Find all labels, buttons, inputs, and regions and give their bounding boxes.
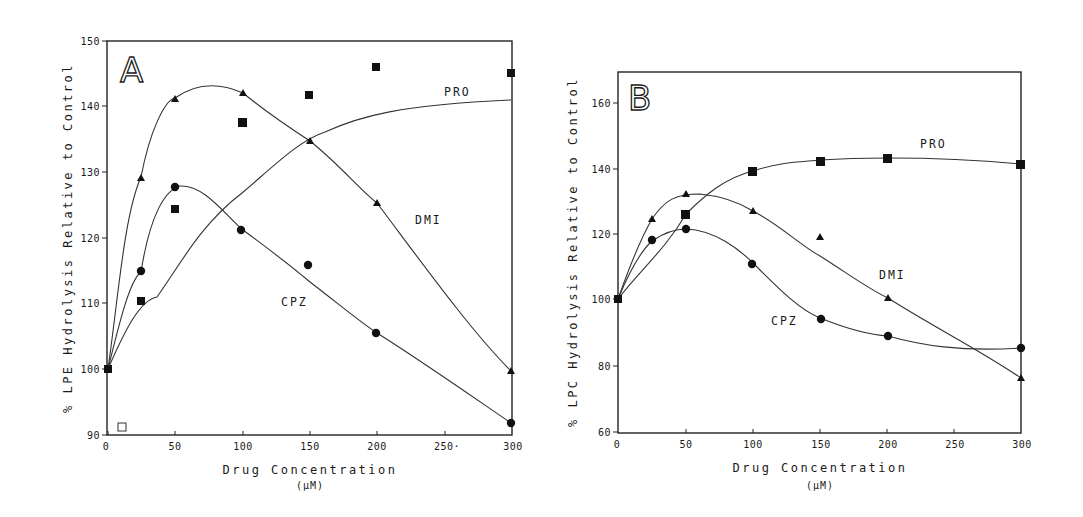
small-square-mark (118, 423, 126, 431)
y-tick-b: 120 (591, 229, 611, 240)
y-axis-b: 60 80 100 120 140 160 (591, 98, 618, 438)
label-dmi-a: DMI (415, 213, 442, 227)
panel-letter-a: A (120, 50, 143, 90)
curve-pro-b (618, 158, 1021, 299)
y-tick-a: 150 (80, 36, 100, 47)
curve-dmi-a (108, 86, 511, 371)
x-tick-b: 150 (811, 439, 831, 450)
x-axis-unit-a: (µM) (296, 480, 324, 491)
x-tick-b: 100 (743, 439, 763, 450)
x-tick-a: 50 (168, 441, 181, 452)
y-tick-b: 140 (591, 164, 611, 175)
curve-cpz-a (108, 186, 511, 423)
curve-dmi-b (618, 194, 1021, 378)
x-tick-a: 0 (103, 441, 110, 452)
y-tick-b: 80 (598, 361, 611, 372)
markers-pro-a (104, 63, 515, 373)
x-tick-a: 200 (367, 441, 387, 452)
x-tick-a: 300 (503, 441, 523, 452)
label-pro-a: PRO (444, 85, 471, 99)
y-tick-a: 140 (80, 101, 100, 112)
markers-pro-b (614, 154, 1025, 303)
panel-letter-b: B (628, 78, 651, 118)
markers-dmi-b (648, 190, 1025, 381)
x-tick-b: 250 (945, 439, 965, 450)
x-tick-b: 300 (1012, 439, 1032, 450)
label-cpz-b: CPZ (771, 314, 798, 328)
y-axis-title-a: % LPE Hydrolysis Relative to Control (61, 63, 75, 413)
markers-cpz-b (648, 225, 1025, 352)
x-tick-a: 100 (233, 441, 253, 452)
x-axis-a: 0 50 100 150 200 250· 300 (103, 431, 523, 452)
x-axis-unit-b: (µM) (806, 480, 834, 491)
label-cpz-a: CPZ (281, 295, 308, 309)
plot-frame-a (107, 41, 512, 435)
y-tick-b: 100 (591, 294, 611, 305)
chart-b: 60 80 100 120 140 160 0 50 100 150 200 2… (566, 72, 1032, 491)
figure: 90 100 110 120 130 140 150 0 50 100 150 … (0, 0, 1083, 517)
y-tick-a: 90 (87, 430, 100, 441)
x-axis-b: 0 50 100 150 200 250 300 (614, 429, 1032, 450)
y-axis-title-b: % LPC Hydrolysis Relative to Control (566, 77, 580, 427)
x-tick-b: 0 (614, 439, 621, 450)
x-tick-a: 150 (300, 441, 320, 452)
plot-frame-b (618, 72, 1021, 433)
chart-a: 90 100 110 120 130 140 150 0 50 100 150 … (61, 36, 523, 491)
x-axis-title-a: Drug Concentration (222, 463, 397, 477)
x-axis-title-b: Drug Concentration (732, 461, 907, 475)
x-tick-b: 50 (679, 439, 692, 450)
y-tick-b: 60 (598, 427, 611, 438)
y-tick-a: 100 (80, 364, 100, 375)
x-tick-b: 200 (878, 439, 898, 450)
label-dmi-b: DMI (879, 268, 906, 282)
curve-cpz-b (618, 229, 1021, 349)
x-tick-a: 250· (434, 441, 460, 452)
markers-cpz-a (137, 183, 515, 427)
y-tick-a: 110 (80, 298, 100, 309)
label-pro-b: PRO (920, 137, 947, 151)
y-tick-a: 130 (80, 167, 100, 178)
y-axis-a: 90 100 110 120 130 140 150 (80, 36, 107, 441)
y-tick-a: 120 (80, 233, 100, 244)
y-tick-b: 160 (591, 98, 611, 109)
